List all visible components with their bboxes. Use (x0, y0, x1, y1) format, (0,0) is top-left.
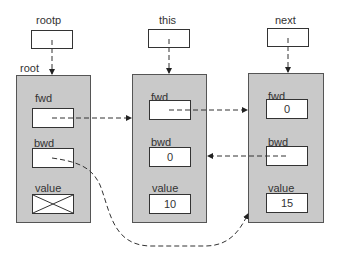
field-this-fwd (149, 100, 191, 120)
field-label-value: value (35, 182, 61, 194)
null-cross-icon (33, 195, 73, 213)
pointer-box-this (148, 29, 190, 48)
pointer-label-this: this (159, 14, 176, 26)
node-label-root: root (20, 62, 39, 74)
field-label-value: value (152, 182, 178, 194)
field-label-fwd: fwd (35, 92, 52, 104)
field-next-fwd: 0 (266, 99, 308, 119)
pointer-label-next: next (275, 14, 296, 26)
field-next-value: 15 (266, 193, 308, 213)
field-this-value: 10 (149, 194, 191, 214)
field-this-bwd: 0 (149, 147, 191, 167)
field-root-fwd (32, 108, 74, 128)
field-root-value-null (32, 194, 74, 214)
pointer-box-next (267, 28, 309, 47)
pointer-label-rootp: rootp (36, 14, 61, 26)
field-root-bwd (32, 148, 74, 168)
pointer-box-rootp (31, 30, 73, 49)
field-next-bwd (266, 146, 308, 166)
